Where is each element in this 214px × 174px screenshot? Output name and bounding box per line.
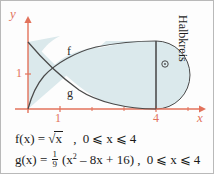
curve-label-g: g bbox=[67, 87, 73, 99]
formula-f-domain-right: 4 bbox=[130, 131, 137, 146]
sqrt-icon: √x bbox=[48, 131, 63, 145]
x-axis-label: x bbox=[197, 111, 203, 124]
y-axis-arrow bbox=[24, 16, 31, 23]
formula-g-middle: – 8x + 16) bbox=[77, 152, 134, 167]
formula-g-open: (x bbox=[62, 152, 73, 167]
region-f-g-area bbox=[28, 41, 156, 109]
formula-f-var: x bbox=[106, 131, 113, 146]
formula-g-domain-left: 0 bbox=[147, 152, 154, 167]
y-axis-label: y bbox=[10, 7, 16, 20]
formula-g-domain-right: 4 bbox=[194, 152, 201, 167]
formula-f-le-1: ⩽ bbox=[92, 131, 103, 146]
formula-g-var: x bbox=[170, 152, 177, 167]
formula-g-lhs: g(x) = bbox=[15, 152, 51, 167]
formula-g-le-2: ⩽ bbox=[180, 152, 191, 167]
formula-f-le-2: ⩽ bbox=[116, 131, 127, 146]
fraction-one-ninth: 19 bbox=[52, 150, 59, 170]
y-tick-label-1: 1 bbox=[16, 67, 22, 79]
x-tick-label-4: 4 bbox=[153, 112, 159, 124]
circle-center-dot-icon bbox=[164, 63, 166, 65]
figure-page: y x 1 1 4 f g Halbkreis f(x) = √x , 0⩽x⩽… bbox=[0, 0, 214, 174]
formula-f-comma: , bbox=[70, 131, 80, 146]
curve-label-f: f bbox=[67, 45, 71, 57]
graph-figure: y x 1 1 4 f g Halbkreis bbox=[1, 1, 214, 127]
formula-f: f(x) = √x , 0⩽x⩽4 bbox=[15, 131, 136, 145]
formula-block: f(x) = √x , 0⩽x⩽4 g(x) = 19(x2 – 8x + 16… bbox=[1, 127, 214, 173]
fraction-denominator: 9 bbox=[52, 160, 59, 169]
x-tick-label-1: 1 bbox=[55, 112, 61, 124]
formula-g-comma: , bbox=[134, 152, 144, 167]
formula-f-domain-left: 0 bbox=[83, 131, 90, 146]
formula-f-lhs: f(x) = bbox=[15, 131, 48, 146]
formula-g-le-1: ⩽ bbox=[156, 152, 167, 167]
radicand: x bbox=[54, 131, 63, 145]
formula-g: g(x) = 19(x2 – 8x + 16) , 0⩽x⩽4 bbox=[15, 150, 200, 170]
halbkreis-annotation: Halbkreis bbox=[177, 15, 189, 62]
